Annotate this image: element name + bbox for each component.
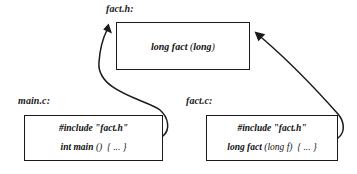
file-label-fact-c: fact.c: (186, 95, 213, 106)
main-c-box: #include "fact.h" int main () { ... } (24, 115, 163, 161)
arrow-main-to-header-head (103, 24, 112, 34)
fact-h-decl-prefix: long fact (151, 41, 190, 52)
main-c-include-line: #include "fact.h" (59, 123, 128, 133)
fact-c-fn-body: { ... } (297, 142, 316, 152)
main-c-fn-prefix: int main (61, 142, 96, 152)
fact-c-box: #include "fact.h" long fact (long f) { .… (206, 115, 338, 161)
fact-h-decl-paren-close: ) (212, 41, 215, 52)
file-label-fact-h: fact.h: (106, 3, 134, 14)
fact-h-declaration: long fact (long) (151, 41, 215, 52)
fact-h-decl-inner: long (193, 41, 211, 52)
diagram-canvas: fact.h: long fact (long) main.c: #includ… (0, 0, 357, 174)
main-c-fn-body: { ... } (107, 142, 126, 152)
file-label-main-c: main.c: (18, 95, 50, 106)
fact-c-fn-parens: (long f) (264, 142, 292, 152)
fact-c-fn-prefix: long fact (227, 142, 264, 152)
fact-c-include-line: #include "fact.h" (237, 123, 306, 133)
arrow-source-to-header-head (255, 32, 266, 42)
main-c-function-line: int main () { ... } (61, 142, 127, 152)
fact-c-function-line: long fact (long f) { ... } (227, 142, 316, 152)
fact-h-box: long fact (long) (116, 22, 250, 70)
main-c-fn-parens: () (96, 142, 102, 152)
